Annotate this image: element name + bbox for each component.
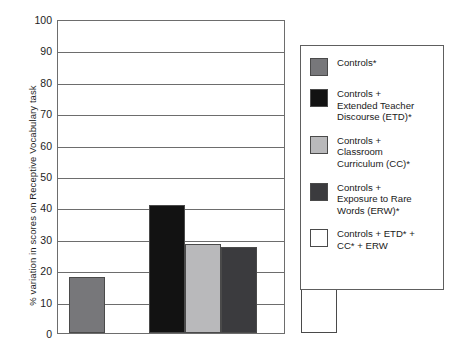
legend-label-5: Controls + ETD* + CC* + ERW — [337, 228, 415, 251]
legend-label-2: Controls + Extended Teacher Discourse (E… — [337, 88, 414, 123]
legend-swatch-cc — [310, 136, 328, 154]
legend-item-1[interactable]: Controls* — [310, 57, 437, 76]
y-tick-60: 60 — [6, 140, 52, 151]
bar-4 — [221, 247, 257, 333]
y-tick-90: 90 — [6, 46, 52, 57]
y-tick-10: 10 — [6, 297, 52, 308]
y-tick-50: 50 — [6, 172, 52, 183]
legend-label-3: Controls + Classroom Curriculum (CC)* — [337, 135, 410, 170]
bar-chart-figure: % variation in scores on Receptive Vocab… — [0, 0, 452, 360]
legend-box: Controls*Controls + Extended Teacher Dis… — [300, 45, 444, 290]
plot-area — [57, 20, 285, 334]
y-tick-40: 40 — [6, 203, 52, 214]
y-tick-100: 100 — [6, 15, 52, 26]
y-tick-70: 70 — [6, 109, 52, 120]
legend-item-3[interactable]: Controls + Classroom Curriculum (CC)* — [310, 135, 437, 170]
bar-2 — [149, 205, 185, 333]
legend-swatch-etd — [310, 89, 328, 107]
y-tick-30: 30 — [6, 235, 52, 246]
y-tick-0: 0 — [6, 329, 52, 340]
bar-3 — [185, 244, 221, 333]
gridline-50 — [58, 178, 284, 179]
legend-item-2[interactable]: Controls + Extended Teacher Discourse (E… — [310, 88, 437, 123]
y-axis-tick-labels: 100 90 80 70 60 50 40 30 20 10 0 — [0, 20, 52, 334]
gridline-60 — [58, 147, 284, 148]
y-tick-20: 20 — [6, 266, 52, 277]
gridline-80 — [58, 84, 284, 85]
gridline-90 — [58, 52, 284, 53]
legend-item-4[interactable]: Controls + Exposure to Rare Words (ERW)* — [310, 182, 437, 217]
bar-1 — [69, 277, 105, 333]
gridline-70 — [58, 115, 284, 116]
legend-swatch-erw — [310, 183, 328, 201]
legend-swatch-combined — [310, 229, 328, 247]
legend-label-1: Controls* — [337, 57, 376, 69]
legend-item-5[interactable]: Controls + ETD* + CC* + ERW — [310, 228, 437, 251]
y-tick-80: 80 — [6, 78, 52, 89]
legend-swatch-controls — [310, 58, 328, 76]
legend-label-4: Controls + Exposure to Rare Words (ERW)* — [337, 182, 412, 217]
